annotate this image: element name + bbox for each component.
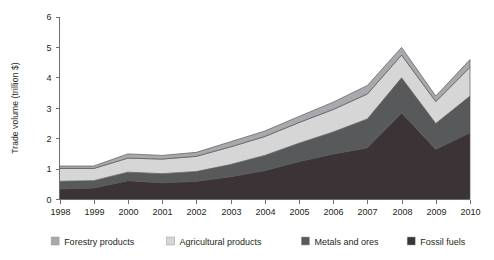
y-tick-label: 6 — [46, 12, 51, 22]
x-tick-label: 2009 — [426, 207, 446, 217]
x-tick-label-group: 1998199920002001200220032004200520062007… — [50, 207, 480, 217]
x-tick-label: 2001 — [152, 207, 172, 217]
x-tick-label: 1998 — [50, 207, 70, 217]
legend-swatch — [407, 237, 415, 245]
y-axis-title: Trade volume (trillion $) — [10, 62, 20, 154]
x-tick-label: 2002 — [186, 207, 206, 217]
x-tick-group — [61, 200, 471, 204]
x-tick-label: 2010 — [460, 207, 480, 217]
y-tick-label-group: 0123456 — [46, 12, 51, 205]
x-tick-label: 2004 — [255, 207, 275, 217]
x-tick-label: 2000 — [118, 207, 138, 217]
x-tick-label: 1999 — [84, 207, 104, 217]
y-tick-label: 3 — [46, 104, 51, 114]
chart-figure: 0123456 19981999200020012002200320042005… — [0, 0, 494, 260]
y-tick-label: 4 — [46, 73, 51, 83]
stacked-area-chart: 0123456 19981999200020012002200320042005… — [0, 0, 494, 260]
legend-label: Forestry products — [64, 237, 135, 247]
legend-swatch — [167, 237, 175, 245]
y-tick-label: 2 — [46, 134, 51, 144]
x-tick-label: 2005 — [289, 207, 309, 217]
legend-label: Fossil fuels — [420, 237, 466, 247]
y-tick-label: 5 — [46, 43, 51, 53]
legend-swatch — [51, 237, 59, 245]
x-tick-label: 2006 — [323, 207, 343, 217]
legend-swatch — [301, 237, 309, 245]
chart-legend: Forestry productsAgricultural productsMe… — [51, 237, 466, 247]
legend-label: Metals and ores — [314, 237, 379, 247]
legend-label: Agricultural products — [180, 237, 263, 247]
y-tick-label: 1 — [46, 164, 51, 174]
x-tick-label: 2007 — [357, 207, 377, 217]
x-tick-label: 2008 — [392, 207, 412, 217]
area-series-group — [60, 47, 471, 199]
y-tick-group — [56, 17, 60, 200]
x-tick-label: 2003 — [221, 207, 241, 217]
y-tick-label: 0 — [46, 195, 51, 205]
